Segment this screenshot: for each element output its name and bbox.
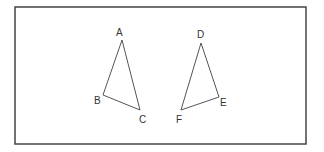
vertex-label-b: B: [94, 95, 101, 106]
vertex-label-d: D: [197, 29, 204, 40]
triangle-abc: [103, 40, 140, 110]
vertex-label-e: E: [220, 97, 227, 108]
triangle-def: [181, 43, 219, 110]
frame-border: [15, 7, 306, 144]
diagram-canvas: A B C D E F: [0, 0, 324, 152]
vertex-label-a: A: [116, 27, 123, 38]
vertex-label-c: C: [139, 114, 146, 125]
vertex-label-f: F: [176, 114, 182, 125]
